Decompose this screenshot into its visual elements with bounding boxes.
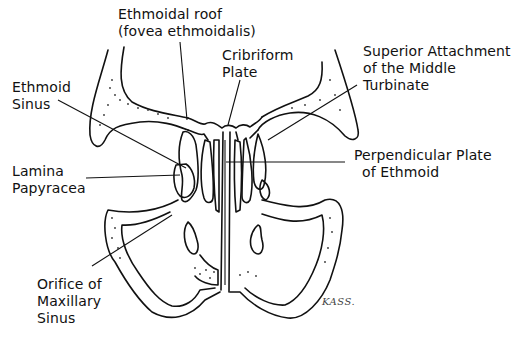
label-line: Orifice of xyxy=(37,276,102,293)
label-line: Maxillary xyxy=(37,293,102,310)
label-line: of Ethmoid xyxy=(354,164,492,181)
leader-lamina-papyracea xyxy=(86,175,180,178)
label-line: Sinus xyxy=(12,96,71,113)
left-maxillary-sinus xyxy=(105,200,220,317)
label-cribriform-plate: Cribriform Plate xyxy=(222,47,294,81)
leader-orifice-maxillary xyxy=(92,215,172,266)
label-line: Lamina xyxy=(12,163,86,180)
left-orbit-roof xyxy=(90,47,188,146)
label-line: Ethmoidal roof xyxy=(118,6,256,23)
label-line: Ethmoid xyxy=(12,79,71,96)
leader-ethmoid-sinus xyxy=(58,100,186,168)
label-line: Perpendicular Plate xyxy=(354,147,492,164)
left-ethmoid-cells xyxy=(174,132,219,212)
label-line: Turbinate xyxy=(363,77,511,94)
ethmoid-roof xyxy=(188,117,262,140)
label-line: Sinus xyxy=(37,310,102,327)
label-line: of the Middle xyxy=(363,60,511,77)
label-orifice-maxillary: Orifice of Maxillary Sinus xyxy=(37,276,102,327)
label-line: Plate xyxy=(222,64,294,81)
bone-stippling xyxy=(99,79,341,279)
label-line: Superior Attachment xyxy=(363,43,511,60)
anatomy-diagram: Ethmoidal roof (fovea ethmoidalis) Cribr… xyxy=(0,0,531,338)
leader-ethmoidal-roof xyxy=(180,42,187,120)
label-lamina-papyracea: Lamina Papyracea xyxy=(12,163,86,197)
nasal-septum xyxy=(221,132,230,292)
leader-cribriform-plate xyxy=(228,80,240,125)
label-superior-attachment: Superior Attachment of the Middle Turbin… xyxy=(363,43,511,94)
label-line: Cribriform xyxy=(222,47,294,64)
label-ethmoidal-roof: Ethmoidal roof (fovea ethmoidalis) xyxy=(118,6,256,40)
artist-signature: KASS. xyxy=(322,296,355,307)
label-line: Papyracea xyxy=(12,180,86,197)
label-line: (fovea ethmoidalis) xyxy=(118,23,256,40)
leader-lines xyxy=(58,42,357,266)
label-perpendicular-plate: Perpendicular Plate of Ethmoid xyxy=(354,147,492,181)
label-ethmoid-sinus: Ethmoid Sinus xyxy=(12,79,71,113)
